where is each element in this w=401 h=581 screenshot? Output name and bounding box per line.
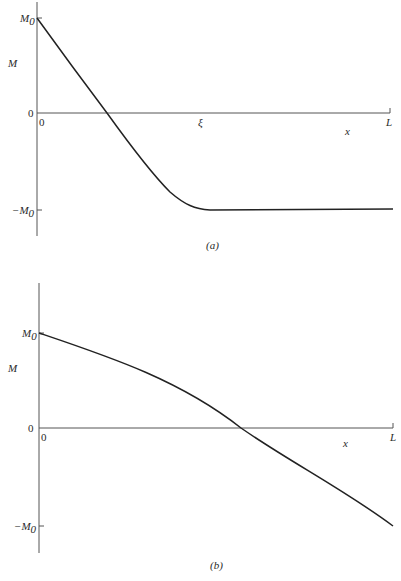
panel-a-curve xyxy=(37,18,393,210)
panel-b-m0-label: M0 xyxy=(21,327,37,342)
panel-a-xi-label: ξ xyxy=(198,116,203,129)
panel-a-m0-label: M0 xyxy=(19,12,35,27)
panel-a: M0 M 0 0 ξ x L −M0 (a) xyxy=(7,2,393,252)
panel-b-curve xyxy=(39,333,393,526)
panel-b-zero-y: 0 xyxy=(28,422,34,434)
panel-b-L-label: L xyxy=(389,431,396,443)
panel-b-ylabel: M xyxy=(7,362,18,374)
panel-a-neg-m0-label: −M0 xyxy=(12,204,35,219)
panel-a-zero-y: 0 xyxy=(28,107,34,119)
panel-a-caption: (a) xyxy=(206,239,219,252)
panel-a-zero-x: 0 xyxy=(39,116,45,128)
figure: M0 M 0 0 ξ x L −M0 (a) M0 M 0 0 x L −M0 … xyxy=(0,0,401,581)
panel-b-caption: (b) xyxy=(210,559,223,572)
panel-a-xlabel: x xyxy=(344,125,350,137)
panel-b-neg-m0-label: −M0 xyxy=(14,520,37,535)
panel-b-zero-x: 0 xyxy=(41,431,47,443)
panel-b-xlabel: x xyxy=(342,437,348,449)
panel-a-ylabel: M xyxy=(7,57,18,69)
panel-a-L-label: L xyxy=(385,116,392,128)
panel-b: M0 M 0 0 x L −M0 (b) xyxy=(7,283,396,572)
